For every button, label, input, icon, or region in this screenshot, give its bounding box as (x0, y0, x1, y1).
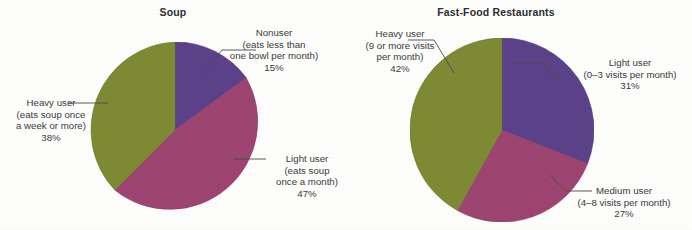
chart-title-fast-food-restaurants: Fast-Food Restaurants (346, 6, 646, 18)
callout-line: (eats soup once (0, 109, 102, 121)
callout-line: 15% (212, 62, 336, 74)
callout-line: Heavy user (346, 28, 454, 40)
callout-line: Light user (568, 57, 692, 69)
callout-line: (0–3 visits per month) (568, 69, 692, 81)
callout-line: 47% (268, 188, 346, 200)
callout-line: Heavy user (0, 97, 102, 109)
callout-line: 31% (568, 80, 692, 92)
callout-line: a week or more) (0, 120, 102, 132)
callout-ffr-light-user: Light user (0–3 visits per month) 31% (568, 57, 692, 92)
callout-line: (9 or more visits (346, 40, 454, 52)
callout-line: one bowl per month) (212, 50, 336, 62)
chart-panel-soup: Soup Nonuser (eats less than one bowl pe… (0, 0, 346, 230)
callout-line: 27% (560, 208, 688, 220)
callout-soup-heavy-user: Heavy user (eats soup once a week or mor… (0, 97, 102, 143)
callout-ffr-heavy-user: Heavy user (9 or more visits per month) … (346, 28, 454, 74)
chart-panel-fast-food-restaurants: Fast-Food Restaurants Heavy user (9 or m… (346, 0, 692, 230)
callout-ffr-medium-user: Medium user (4–8 visits per month) 27% (560, 185, 688, 220)
callout-line: once a month) (268, 176, 346, 188)
callout-line: (eats less than (212, 39, 336, 51)
callout-soup-nonuser: Nonuser (eats less than one bowl per mon… (212, 27, 336, 73)
chart-title-soup: Soup (0, 6, 346, 18)
callout-line: Light user (268, 153, 346, 165)
callout-line: Medium user (560, 185, 688, 197)
callout-soup-light-user: Light user (eats soup once a month) 47% (268, 153, 346, 199)
callout-line: (4–8 visits per month) (560, 197, 688, 209)
callout-line: per month) (346, 51, 454, 63)
callout-line: Nonuser (212, 27, 336, 39)
callout-line: 38% (0, 132, 102, 144)
pie-chart-figure: Soup Nonuser (eats less than one bowl pe… (0, 0, 692, 230)
callout-line: 42% (346, 63, 454, 75)
callout-line: (eats soup (268, 165, 346, 177)
